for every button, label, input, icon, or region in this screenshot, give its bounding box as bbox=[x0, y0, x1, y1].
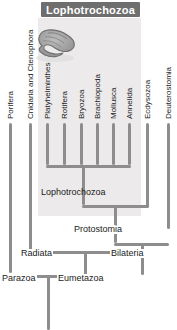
figure-title-banner: Lophotrochozoa bbox=[41, 2, 140, 17]
node-label-parazoa: Parazoa bbox=[1, 274, 37, 283]
tip-label-annelida: Annelida bbox=[126, 88, 134, 119]
branch-platyhelminthes bbox=[46, 123, 49, 165]
cladogram-figure: Lophotrochozoa bbox=[0, 0, 177, 330]
branch-cnidaria-ctenophora bbox=[29, 123, 32, 251]
tip-label-platyhelminthes: Platyhelminthes bbox=[44, 63, 52, 119]
tip-label-porifera: Porifera bbox=[7, 91, 15, 119]
branch-porifera bbox=[9, 123, 12, 273]
node-label-bilateria: Bilateria bbox=[110, 249, 145, 258]
tip-label-mollusca: Mollusca bbox=[110, 87, 118, 119]
tip-label-bryozoa: Bryozoa bbox=[78, 90, 86, 119]
branch-bryozoa bbox=[80, 123, 83, 165]
node-label-lophotrochozoa: Lophotrochozoa bbox=[40, 188, 107, 197]
branch-ecdysozoa bbox=[146, 123, 149, 207]
tip-label-brachiopoda: Brachiopoda bbox=[94, 74, 102, 119]
node-label-protostomia: Protostomia bbox=[73, 225, 123, 234]
tip-label-cnidaria-ctenophora: Cnidaria and Ctenophora bbox=[27, 30, 35, 119]
branch-deuterostomia bbox=[167, 123, 170, 229]
tip-label-rotifera: Rotifera bbox=[61, 91, 69, 119]
lophotrochozoan-organism-illustration bbox=[30, 24, 82, 64]
tip-label-deuterostomia: Deuterostomia bbox=[165, 67, 173, 119]
stem-eumetazoa bbox=[84, 251, 87, 275]
tip-label-ecdysozoa: Ecdysozoa bbox=[144, 80, 152, 119]
branch-brachiopoda bbox=[96, 123, 99, 165]
node-label-radiata: Radiata bbox=[20, 249, 53, 258]
clade-bar-lophotrochozoa bbox=[46, 165, 131, 168]
branch-rotifera bbox=[63, 123, 66, 165]
node-label-eumetazoa: Eumetazoa bbox=[57, 274, 105, 283]
stem-root bbox=[47, 275, 50, 330]
stem-lophotrochozoa bbox=[82, 165, 85, 205]
branch-mollusca bbox=[112, 123, 115, 165]
branch-annelida bbox=[128, 123, 131, 165]
